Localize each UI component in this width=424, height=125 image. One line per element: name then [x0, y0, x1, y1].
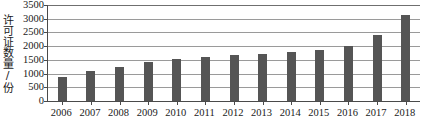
bar — [287, 52, 296, 101]
y-tick-label: 2500 — [23, 27, 44, 38]
x-tick-label: 2014 — [280, 107, 301, 119]
y-tick-label: 1000 — [23, 68, 44, 79]
bar — [315, 50, 324, 101]
bar — [258, 54, 267, 101]
bars-layer — [48, 5, 420, 101]
x-tickmark — [91, 101, 92, 105]
x-tickmark — [205, 101, 206, 105]
y-tick-label: 2000 — [23, 41, 44, 52]
x-tickmark — [291, 101, 292, 105]
x-tick-label: 2015 — [308, 107, 329, 119]
x-tick-label: 2011 — [194, 107, 215, 119]
x-tick-label: 2016 — [337, 107, 358, 119]
x-tick-label: 2018 — [394, 107, 415, 119]
x-tick-label: 2009 — [137, 107, 158, 119]
bar — [401, 15, 410, 101]
x-tickmark — [120, 101, 121, 105]
x-tickmark — [320, 101, 321, 105]
bar — [86, 71, 95, 101]
bar — [201, 57, 210, 101]
y-tickmark — [44, 32, 48, 33]
y-tick-label: 1500 — [23, 55, 44, 66]
y-axis-title: 许可证数量/份 — [0, 2, 15, 104]
x-tickmark — [348, 101, 349, 105]
x-tickmark — [377, 101, 378, 105]
y-axis-tick-labels: 0500100015002000250030003500 — [14, 0, 46, 105]
y-tickmark — [44, 46, 48, 47]
x-tick-label: 2013 — [251, 107, 272, 119]
x-tick-label: 2017 — [366, 107, 387, 119]
x-tick-label: 2010 — [165, 107, 186, 119]
bar — [58, 77, 67, 101]
x-tickmark — [148, 101, 149, 105]
x-tickmark — [234, 101, 235, 105]
bar — [373, 35, 382, 101]
y-tickmark — [44, 74, 48, 75]
x-tick-label: 2007 — [79, 107, 100, 119]
y-tick-label: 3000 — [23, 13, 44, 24]
y-tick-label: 500 — [28, 82, 44, 93]
bar — [230, 55, 239, 101]
x-tickmark — [62, 101, 63, 105]
y-tickmark — [44, 60, 48, 61]
x-tick-label: 2008 — [108, 107, 129, 119]
bar — [115, 67, 124, 101]
x-tickmark — [263, 101, 264, 105]
x-axis-tick-labels: 2006200720082009201020112012201320142015… — [47, 107, 419, 123]
y-tickmark — [44, 19, 48, 20]
bar — [144, 62, 153, 101]
y-tick-label: 3500 — [23, 0, 44, 10]
x-tick-label: 2006 — [51, 107, 72, 119]
x-tickmark — [177, 101, 178, 105]
x-tick-label: 2012 — [223, 107, 244, 119]
bar — [344, 46, 353, 101]
y-tickmark — [44, 101, 48, 102]
bar-chart: 许可证数量/份 0500100015002000250030003500 200… — [0, 0, 424, 125]
y-tickmark — [44, 5, 48, 6]
bar — [172, 59, 181, 101]
plot-area — [47, 5, 420, 102]
y-tickmark — [44, 87, 48, 88]
x-tickmark — [406, 101, 407, 105]
